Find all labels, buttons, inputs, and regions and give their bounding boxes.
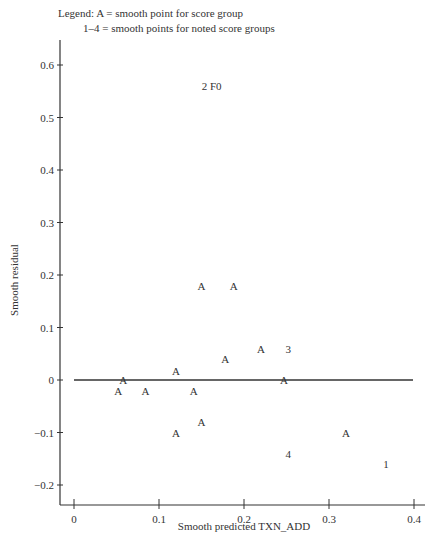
- data-point: A: [190, 385, 198, 397]
- y-tick-label: 0.3: [40, 217, 54, 229]
- data-point: A: [114, 385, 122, 397]
- x-tick-label: 0.1: [152, 513, 166, 525]
- y-tick-label: 0.1: [40, 322, 54, 334]
- data-point: A: [342, 427, 350, 439]
- x-tick-label: 0: [71, 513, 77, 525]
- data-point: A: [280, 374, 288, 386]
- data-point: A: [172, 365, 180, 377]
- y-tick-label: 0.6: [40, 59, 54, 71]
- y-tick-label: −0.1: [34, 427, 54, 439]
- data-point: A: [257, 343, 265, 355]
- data-point: A: [221, 353, 229, 365]
- y-tick-label: −0.2: [34, 479, 54, 491]
- y-axis-label: Smooth residual: [8, 244, 20, 316]
- x-tick-label: 0.3: [322, 513, 336, 525]
- y-tick-label: 0.2: [40, 269, 54, 281]
- data-point: A: [230, 280, 238, 292]
- data-point: 4: [285, 448, 291, 460]
- data-points: AAAAAAAAAAA3AA412 F0: [114, 80, 388, 470]
- data-point: A: [172, 427, 180, 439]
- y-tick-label: 0.5: [40, 112, 54, 124]
- y-tick-label: 0.4: [40, 164, 54, 176]
- data-point: 2 F0: [202, 80, 222, 92]
- y-tick-label: 0: [49, 374, 55, 386]
- x-tick-label: 0.4: [407, 513, 421, 525]
- scatter-plot: 0.60.50.40.30.20.10−0.1−0.200.10.20.30.4…: [0, 0, 441, 557]
- data-point: 1: [383, 458, 389, 470]
- data-point: A: [141, 385, 149, 397]
- data-point: 3: [285, 343, 291, 355]
- data-point: A: [198, 280, 206, 292]
- x-axis-label: Smooth predicted TXN_ADD: [178, 520, 310, 532]
- data-point: A: [198, 416, 206, 428]
